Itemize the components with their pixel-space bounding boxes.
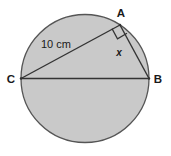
vertex-point-A <box>119 24 121 26</box>
geometry-canvas: A B C 10 cm x <box>0 0 171 156</box>
geometry-figure: A B C 10 cm x <box>0 0 171 156</box>
hypotenuse-length-label: 10 cm <box>41 38 71 50</box>
vertex-label-A: A <box>117 7 125 19</box>
unknown-side-label: x <box>115 47 122 58</box>
vertex-label-C: C <box>7 73 15 85</box>
vertex-label-B: B <box>154 73 162 85</box>
vertex-point-B <box>148 77 150 79</box>
vertex-point-C <box>20 77 22 79</box>
